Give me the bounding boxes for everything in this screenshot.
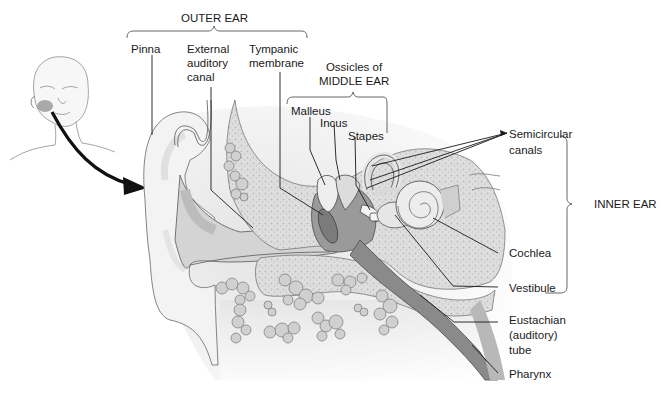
pinna-label: Pinna bbox=[131, 42, 160, 56]
external-canal-line2: auditory bbox=[187, 56, 229, 70]
external-canal-line3: canal bbox=[187, 70, 229, 84]
semicircular-canals-label: Semicircular canals bbox=[509, 127, 572, 157]
eustachian-line3: tube bbox=[509, 343, 566, 357]
eustachian-tube-label: Eustachian (auditory) tube bbox=[509, 313, 566, 357]
outer-ear-label: OUTER EAR bbox=[181, 11, 248, 25]
stapes-label: Stapes bbox=[348, 129, 384, 143]
ossicles-line1: Ossicles of bbox=[319, 60, 389, 74]
ossicles-label: Ossicles of MIDDLE EAR bbox=[319, 60, 389, 88]
vestibule-label: Vestibule bbox=[509, 281, 556, 295]
incus-label: Incus bbox=[320, 116, 348, 130]
tympanic-membrane-label: Tympanic membrane bbox=[249, 42, 304, 70]
tympanic-line1: Tympanic bbox=[249, 42, 304, 56]
head-figure bbox=[10, 57, 115, 160]
external-canal-line1: External bbox=[187, 42, 229, 56]
pharynx-label: Pharynx bbox=[509, 367, 551, 381]
tympanic-line2: membrane bbox=[249, 56, 304, 70]
external-canal-label: External auditory canal bbox=[187, 42, 229, 84]
semicircular-line2: canals bbox=[509, 143, 572, 157]
inner-ear-label: INNER EAR bbox=[594, 197, 657, 211]
cochlea-label: Cochlea bbox=[509, 246, 551, 260]
eustachian-line2: (auditory) bbox=[509, 328, 566, 342]
outer-ear-bracket bbox=[127, 26, 307, 38]
semicircular-line1: Semicircular bbox=[509, 127, 572, 141]
inner-ear-bracket bbox=[545, 136, 572, 293]
ossicles-line2: MIDDLE EAR bbox=[319, 74, 389, 88]
eustachian-line1: Eustachian bbox=[509, 313, 566, 327]
